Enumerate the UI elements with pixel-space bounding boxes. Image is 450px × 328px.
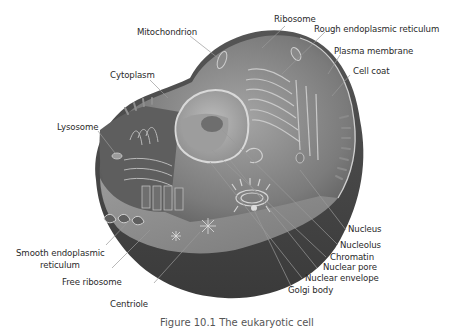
label-cell-coat: Cell coat — [353, 66, 390, 76]
figure-caption: Figure 10.1 The eukaryotic cell — [160, 317, 314, 328]
label-cytoplasm: Cytoplasm — [110, 70, 155, 80]
label-mitochondrion: Mitochondrion — [137, 27, 197, 37]
label-smooth-er-line2: reticulum — [40, 260, 80, 270]
label-smooth-er-line1: Smooth endoplasmic — [16, 248, 105, 258]
smooth-er — [104, 214, 144, 224]
label-nuclear-pore: Nuclear pore — [323, 262, 377, 272]
label-nuclear-envelope: Nuclear envelope — [305, 273, 379, 283]
vesicle — [296, 153, 304, 163]
label-nucleolus: Nucleolus — [340, 240, 381, 250]
label-plasma-membrane: Plasma membrane — [334, 46, 413, 56]
nucleolus — [201, 116, 223, 132]
label-golgi-body: Golgi body — [288, 285, 333, 295]
label-free-ribosome: Free ribosome — [62, 277, 122, 287]
label-lysosome: Lysosome — [57, 122, 98, 132]
label-centriole: Centriole — [110, 299, 148, 309]
label-chromatin: Chromatin — [330, 252, 374, 262]
label-nucleus: Nucleus — [348, 224, 382, 234]
lysosome — [112, 153, 122, 159]
label-rough-er: Rough endoplasmic reticulum — [314, 24, 439, 34]
label-ribosome: Ribosome — [274, 14, 316, 24]
